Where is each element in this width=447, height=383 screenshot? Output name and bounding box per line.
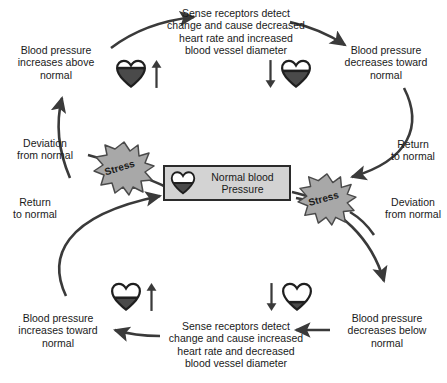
path-label-lower-right-deviation: Deviation from normal bbox=[380, 196, 446, 221]
homeostasis-feedback-diagram: Normal blood Pressure Blood pressure inc… bbox=[0, 0, 447, 383]
heart-unit-bp-decreases-below-normal bbox=[265, 281, 313, 313]
arrow-down-icon bbox=[265, 282, 278, 312]
node-label-bp-increases-toward-normal: Blood pressure increases toward normal bbox=[6, 312, 110, 349]
heart-very-full-icon bbox=[115, 58, 147, 90]
heart-full-icon bbox=[280, 58, 312, 90]
process-text-lower-response: Sense receptors detect change and cause … bbox=[146, 320, 326, 369]
node-label-bp-decreases-toward-normal: Blood pressure decreases toward normal bbox=[330, 44, 442, 81]
path-label-upper-left-deviation: Deviation from normal bbox=[2, 137, 88, 162]
process-text-upper-response: Sense receptors detect change and cause … bbox=[146, 7, 326, 56]
arrow-up-icon bbox=[145, 282, 158, 312]
stressor-lower-right: Stress bbox=[296, 172, 358, 226]
heart-low-icon bbox=[281, 281, 313, 313]
path-label-lower-left-return: Return to normal bbox=[4, 196, 66, 221]
arrow-down-icon bbox=[264, 59, 277, 89]
node-label-bp-decreases-below-normal: Blood pressure decreases below normal bbox=[330, 312, 444, 349]
heart-unit-bp-increases-above-normal bbox=[115, 58, 163, 90]
stressor-upper-left: Stress bbox=[93, 140, 155, 196]
heart-half-filled-icon bbox=[110, 281, 142, 313]
center-node-label: Normal blood Pressure bbox=[196, 171, 289, 196]
heart-half-filled-icon bbox=[170, 170, 196, 196]
arrow-return-to-normal-upper bbox=[352, 88, 412, 177]
heart-unit-bp-increases-toward-normal bbox=[110, 281, 158, 313]
node-label-bp-increases-above-normal: Blood pressure increases above normal bbox=[6, 44, 106, 81]
heart-unit-bp-decreases-toward-normal bbox=[264, 58, 312, 90]
arrow-up-icon bbox=[150, 59, 163, 89]
path-label-upper-right-return: Return to normal bbox=[382, 138, 444, 163]
center-node-normal-blood-pressure: Normal blood Pressure bbox=[163, 165, 291, 201]
